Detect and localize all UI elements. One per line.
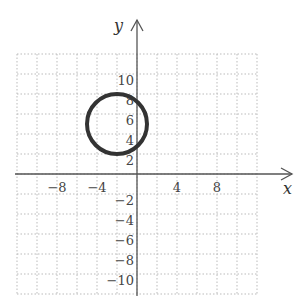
x-tick-label: −4 bbox=[87, 180, 106, 195]
y-tick-label: −4 bbox=[115, 213, 134, 228]
x-tick-label: −8 bbox=[47, 180, 66, 195]
y-tick-label: −6 bbox=[115, 233, 134, 248]
y-tick-label: 10 bbox=[117, 73, 134, 88]
coordinate-plane: −8−448 108642−2−4−6−8−10 x y bbox=[0, 0, 307, 305]
x-tick-label: 8 bbox=[213, 180, 221, 195]
y-tick-label: 2 bbox=[126, 153, 134, 168]
x-axis-label: x bbox=[283, 179, 292, 198]
y-axis-label: y bbox=[113, 16, 124, 35]
y-tick-label: −2 bbox=[115, 193, 134, 208]
x-tick-label: 4 bbox=[173, 180, 181, 195]
y-tick-label: −8 bbox=[115, 253, 134, 268]
y-tick-label: 4 bbox=[126, 133, 134, 148]
y-tick-labels: 108642−2−4−6−8−10 bbox=[107, 73, 134, 288]
y-tick-label: −10 bbox=[107, 273, 134, 288]
y-tick-label: 6 bbox=[126, 113, 134, 128]
x-tick-labels: −8−448 bbox=[47, 180, 221, 195]
